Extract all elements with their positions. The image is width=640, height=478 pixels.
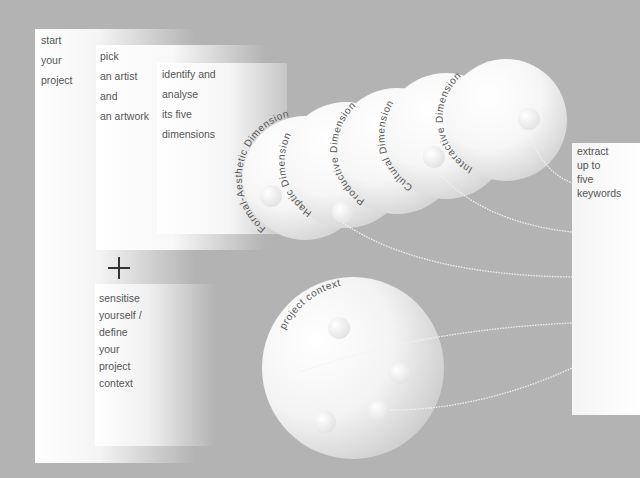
- keyword-dot: [368, 399, 390, 421]
- keyword-dot: [260, 185, 282, 207]
- keyword-dot: [314, 411, 336, 433]
- keyword-dot: [332, 201, 354, 223]
- keyword-dot: [389, 362, 411, 384]
- process-diagram: start your project pick an artist and an…: [0, 0, 640, 478]
- connector-curve: [343, 223, 572, 277]
- keyword-dot: [518, 108, 540, 130]
- project-context-circle: project context: [262, 277, 444, 459]
- dimension-circle-interactive: Interactive Dimension: [434, 59, 567, 181]
- keyword-dot: [328, 317, 350, 339]
- circles-layer: Formal-Aesthetic Dimension Haptic Dimens…: [0, 0, 640, 478]
